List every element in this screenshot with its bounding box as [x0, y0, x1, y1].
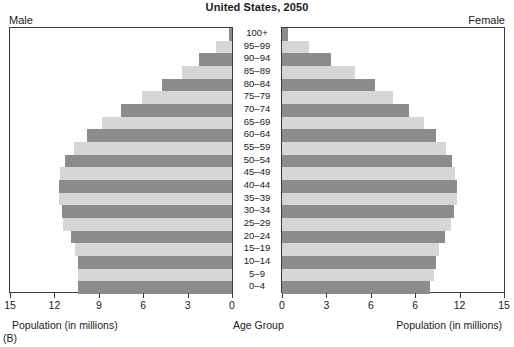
bar-row	[10, 66, 232, 79]
bar-row	[10, 53, 232, 66]
bar-row	[10, 243, 232, 256]
age-group-label: 65–69	[233, 116, 281, 129]
bar-row	[282, 142, 504, 155]
age-group-label: 30–34	[233, 204, 281, 217]
bar-female-95_99	[282, 41, 309, 54]
bar-female-65_69	[282, 117, 424, 130]
age-group-label: 0–4	[233, 280, 281, 293]
bar-row	[10, 155, 232, 168]
bar-row	[10, 142, 232, 155]
bar-row	[10, 218, 232, 231]
bar-female-30_34	[282, 205, 454, 218]
bar-row	[282, 269, 504, 282]
bar-male-50_54	[65, 155, 232, 168]
age-group-label: 10–14	[233, 255, 281, 268]
age-group-label: 45–49	[233, 166, 281, 179]
axis-tick	[460, 293, 461, 298]
bar-female-50_54	[282, 155, 452, 168]
bar-row	[10, 180, 232, 193]
bar-male-100_	[229, 28, 232, 41]
bar-row	[282, 231, 504, 244]
male-axis-title: Population (in millions)	[12, 319, 118, 331]
axis-tick	[371, 293, 372, 298]
age-group-label: 20–24	[233, 230, 281, 243]
axis-tick-label: 15	[4, 299, 16, 311]
female-axis-title: Population (in millions)	[396, 319, 502, 331]
bar-row	[10, 41, 232, 54]
center-axis-title: Age Group	[233, 319, 281, 331]
bar-male-60_64	[87, 129, 232, 142]
axis-tick	[282, 293, 283, 298]
axis-tick-label: 0	[279, 299, 285, 311]
female-side-label: Female	[468, 14, 505, 26]
bar-male-25_29	[63, 218, 232, 231]
axis-tick	[326, 293, 327, 298]
bar-row	[10, 79, 232, 92]
bar-row	[282, 155, 504, 168]
bar-male-70_74	[121, 104, 232, 117]
bar-male-10_14	[78, 256, 232, 269]
panel-tag: (B)	[3, 332, 17, 344]
bar-male-90_94	[199, 53, 232, 66]
bar-row	[282, 104, 504, 117]
male-side-label: Male	[9, 14, 33, 26]
age-group-label: 100+	[233, 27, 281, 40]
bar-female-40_44	[282, 180, 457, 193]
bar-male-40_44	[59, 180, 232, 193]
bar-row	[10, 129, 232, 142]
axis-tick-label: 9	[96, 299, 102, 311]
age-group-label: 15–19	[233, 242, 281, 255]
axis-tick	[232, 293, 233, 298]
bar-row	[282, 53, 504, 66]
bar-male-65_69	[102, 117, 232, 130]
bar-row	[282, 180, 504, 193]
age-group-label: 60–64	[233, 128, 281, 141]
male-bar-rows	[10, 28, 232, 292]
age-group-column: 100+95–9990–9485–8980–8475–7970–7465–696…	[233, 27, 281, 293]
bar-row	[10, 167, 232, 180]
age-group-label: 25–29	[233, 217, 281, 230]
bar-male-45_49	[60, 167, 232, 180]
age-group-label: 75–79	[233, 90, 281, 103]
bar-male-20_24	[71, 231, 232, 244]
age-group-label: 85–89	[233, 65, 281, 78]
bar-female-35_39	[282, 193, 457, 206]
bar-row	[282, 193, 504, 206]
age-group-label: 40–44	[233, 179, 281, 192]
bar-female-55_59	[282, 142, 446, 155]
bar-row	[282, 167, 504, 180]
age-group-label: 5–9	[233, 268, 281, 281]
bar-male-75_79	[142, 91, 232, 104]
bar-row	[282, 41, 504, 54]
population-pyramid-figure: United States, 2050 Male Female 100+95–9…	[0, 0, 514, 347]
axis-tick-label: 6	[412, 299, 418, 311]
bar-female-25_29	[282, 218, 451, 231]
bar-row	[282, 117, 504, 130]
bar-row	[10, 281, 232, 294]
age-group-label: 95–99	[233, 40, 281, 53]
bar-male-85_89	[182, 66, 232, 79]
axis-tick	[415, 293, 416, 298]
bar-row	[282, 218, 504, 231]
bar-row	[10, 91, 232, 104]
bar-row	[282, 79, 504, 92]
axis-tick	[188, 293, 189, 298]
age-group-label: 55–59	[233, 141, 281, 154]
bar-male-15_19	[75, 243, 232, 256]
axis-tick-label: 12	[454, 299, 466, 311]
bar-female-20_24	[282, 231, 445, 244]
bar-female-70_74	[282, 104, 409, 117]
bar-female-45_49	[282, 167, 455, 180]
bar-male-55_59	[74, 142, 232, 155]
bar-female-0_4	[282, 281, 430, 294]
axis-tick	[504, 293, 505, 298]
bar-row	[10, 269, 232, 282]
bar-row	[282, 281, 504, 294]
axis-tick-label: 0	[229, 299, 235, 311]
bar-male-35_39	[59, 193, 232, 206]
bar-female-100_	[282, 28, 288, 41]
bar-female-90_94	[282, 53, 331, 66]
axis-tick	[143, 293, 144, 298]
bar-row	[10, 104, 232, 117]
female-plot-frame	[281, 27, 505, 293]
